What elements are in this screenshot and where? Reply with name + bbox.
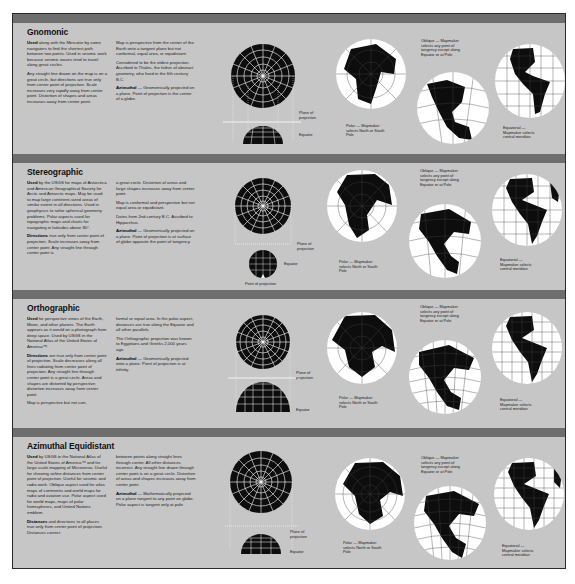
label-plane-of-projection: Plane of projection xyxy=(299,111,329,120)
caption-oblique: Oblique — Mapmaker selects any point of … xyxy=(420,169,466,187)
caption-oblique: Oblique — Mapmaker selects any point of … xyxy=(420,305,466,323)
map-oblique-aspect xyxy=(409,204,481,278)
caption-oblique: Oblique — Mapmaker selects any point of … xyxy=(421,456,467,474)
map-oblique-aspect xyxy=(409,340,481,414)
map-polar-aspect xyxy=(336,39,406,109)
description-column-2: between points along straight lines thro… xyxy=(116,454,196,510)
map-equatorial-aspect xyxy=(494,458,564,530)
section-title: Orthographic xyxy=(27,303,80,313)
section-gnomonic: Gnomonic Used along with the Mercator by… xyxy=(13,14,565,154)
caption-equatorial: Equatorial — Mapmaker selects central me… xyxy=(500,398,540,412)
section-header-bar xyxy=(13,290,565,299)
map-equatorial-aspect xyxy=(492,312,562,384)
map-polar-aspect xyxy=(327,312,397,384)
caption-polar: Polar — Mapmaker selects North or South … xyxy=(343,541,385,555)
label-plane-of-projection: Plane of projection xyxy=(296,371,326,380)
section-stereographic: Stereographic Used by the USGS for maps … xyxy=(13,154,565,290)
caption-polar: Polar — Mapmaker selects North or South … xyxy=(346,124,388,138)
section-title: Stereographic xyxy=(27,167,83,177)
label-equator: Equator xyxy=(290,550,304,555)
section-header-bar xyxy=(13,428,565,437)
section-header-bar xyxy=(13,14,565,23)
description-column-2: formal or equal area. In the polar aspec… xyxy=(116,316,196,375)
section-title: Azimuthal Equidistant xyxy=(27,441,114,451)
description-column-2: a great circle. Distortion of areas and … xyxy=(116,180,196,248)
map-polar-aspect xyxy=(335,458,405,530)
description-column-2: Map is perspective from the center of th… xyxy=(116,40,196,105)
description-column-1: Used for perspective views of the Earth,… xyxy=(27,316,107,409)
label-plane-of-projection: Plane of projection xyxy=(297,242,327,251)
description-column-1: Used by the USGS for maps of Antarctica … xyxy=(27,180,107,259)
caption-polar: Polar — Mapmaker selects North or South … xyxy=(339,260,381,274)
map-oblique-aspect xyxy=(417,72,489,144)
description-column-1: Used along with the Mercator by some nav… xyxy=(27,40,107,108)
map-equatorial-aspect xyxy=(492,174,562,246)
projection-diagram xyxy=(223,174,323,289)
caption-polar: Polar — Mapmaker selects North or South … xyxy=(339,396,381,410)
map-polar-aspect xyxy=(327,170,397,242)
label-point-of-projection: Point of projection xyxy=(245,282,276,287)
caption-oblique: Oblique — Mapmaker selects any point of … xyxy=(421,39,467,57)
map-equatorial-aspect xyxy=(495,44,565,118)
label-equator: Equator xyxy=(296,408,310,413)
map-oblique-aspect xyxy=(414,486,486,560)
section-header-bar xyxy=(13,154,565,163)
caption-equatorial: Equatorial — Mapmaker selects central me… xyxy=(503,126,543,140)
section-orthographic: Orthographic Used for perspective views … xyxy=(13,290,565,428)
caption-equatorial: Equatorial — Mapmaker selects central me… xyxy=(500,258,540,272)
label-equator: Equator xyxy=(299,133,313,138)
description-column-1: Used by USGS in the National Atlas of th… xyxy=(27,454,107,538)
section-azimuthal-equidistant: Azimuthal Equidistant Used by USGS in th… xyxy=(13,428,565,568)
label-equator: Equator xyxy=(284,262,298,267)
projection-diagram xyxy=(223,450,323,565)
projection-chart-frame: Gnomonic Used along with the Mercator by… xyxy=(12,13,566,569)
section-title: Gnomonic xyxy=(27,27,68,37)
label-plane-of-projection: Plane of projection xyxy=(290,530,320,539)
caption-equatorial: Equatorial — Mapmaker selects central me… xyxy=(502,544,542,558)
